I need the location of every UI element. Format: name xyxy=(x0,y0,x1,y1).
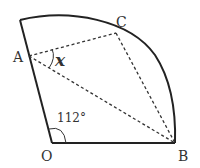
dashed-segment-AB xyxy=(29,56,175,143)
sector-arc xyxy=(20,15,175,143)
segment-OT xyxy=(20,20,52,143)
label-angle-x: x xyxy=(54,50,66,70)
label-angle-112: 112° xyxy=(57,111,86,125)
label-C: C xyxy=(116,14,127,30)
diagram-svg: A C O B 112° x xyxy=(0,0,200,168)
label-A: A xyxy=(12,49,24,65)
dashed-segment-AC xyxy=(29,33,116,56)
dashed-segment-CB xyxy=(116,33,175,143)
label-O: O xyxy=(41,148,52,164)
sector-diagram: A C O B 112° x xyxy=(0,0,200,168)
label-B: B xyxy=(178,148,188,164)
angle-x-arc xyxy=(49,49,53,68)
